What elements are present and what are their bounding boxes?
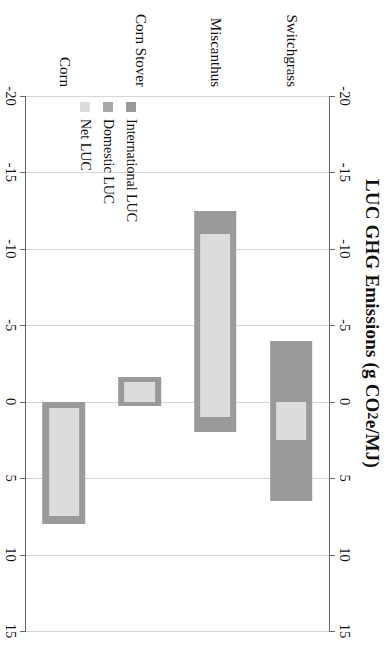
chart-figure: LUC GHG Emissions (g CO2e/MJ) -20-15-10-… — [0, 0, 389, 647]
legend-swatch-icon — [103, 102, 113, 112]
legend-swatch-icon — [126, 102, 136, 112]
category-label: Miscanthus — [207, 18, 224, 87]
bar-net-segment[interactable] — [49, 408, 79, 517]
axis-tick-label: -10 — [336, 239, 353, 258]
axis-tick-label: -15 — [2, 163, 19, 182]
bar-net-segment[interactable] — [276, 402, 306, 440]
axis-tick — [20, 631, 26, 632]
legend-item[interactable]: International LUC — [123, 102, 139, 222]
legend-item[interactable]: Domestic LUC — [100, 102, 116, 222]
axis-tick — [20, 402, 26, 403]
category-row: Switchgrass — [253, 96, 329, 631]
axis-tick-label: -20 — [336, 86, 353, 105]
axis-tick — [329, 96, 335, 97]
axis-tick-label: 5 — [336, 475, 353, 482]
axis-tick — [329, 249, 335, 250]
category-label: Switchgrass — [283, 15, 300, 88]
legend-swatch-icon — [80, 102, 90, 112]
bar-net-segment[interactable] — [200, 234, 230, 417]
legend-item[interactable]: Net LUC — [77, 102, 93, 222]
axis-tick — [329, 478, 335, 479]
axis-tick — [329, 172, 335, 173]
chart-title-tail: e/MJ) — [361, 420, 383, 468]
axis-tick — [329, 402, 335, 403]
axis-tick-label: -10 — [2, 239, 19, 258]
axis-tick — [20, 325, 26, 326]
category-row: Miscanthus — [178, 96, 254, 631]
axis-tick — [20, 478, 26, 479]
plot-area: SwitchgrassMiscanthusCorn StoverCorn — [26, 96, 329, 631]
axis-tick — [20, 172, 26, 173]
bar-net-segment[interactable] — [124, 382, 154, 402]
axis-tick-label: 0 — [336, 398, 353, 405]
axis-tick-label: 10 — [2, 547, 19, 562]
axis-tick — [329, 325, 335, 326]
axis-tick — [329, 555, 335, 556]
axis-tick-label: 10 — [336, 547, 353, 562]
axis-tick-label: -20 — [2, 86, 19, 105]
axis-tick-label: 5 — [2, 475, 19, 482]
axis-tick-label: -15 — [336, 163, 353, 182]
axis-line-bottom — [25, 96, 26, 631]
axis-tick-label: 0 — [2, 398, 19, 405]
gridline — [26, 631, 329, 632]
axis-tick-label: -5 — [2, 319, 19, 331]
legend-label: Domestic LUC — [100, 119, 116, 204]
chart-title-subscript: 2 — [364, 413, 380, 420]
axis-tick-label: -5 — [336, 319, 353, 331]
axis-tick-label: 15 — [336, 624, 353, 639]
axis-tick — [20, 96, 26, 97]
axis-tick — [20, 555, 26, 556]
chart-title: LUC GHG Emissions (g CO2e/MJ) — [355, 0, 389, 647]
category-label: Corn — [55, 57, 72, 87]
legend-label: International LUC — [123, 119, 139, 222]
rotated-chart-stage: LUC GHG Emissions (g CO2e/MJ) -20-15-10-… — [0, 0, 389, 647]
legend-label: Net LUC — [77, 119, 93, 171]
value-axis-top: -20-15-10-5051015 — [329, 96, 355, 631]
axis-tick — [329, 631, 335, 632]
category-label: Corn Stover — [131, 14, 148, 87]
value-axis-bottom: -20-15-10-5051015 — [0, 96, 26, 631]
axis-tick — [20, 249, 26, 250]
chart-title-main: LUC GHG Emissions (g CO — [361, 179, 383, 413]
axis-line-top — [329, 96, 330, 631]
axis-tick-label: 15 — [2, 624, 19, 639]
chart-legend: International LUCDomestic LUCNet LUC — [77, 102, 139, 222]
